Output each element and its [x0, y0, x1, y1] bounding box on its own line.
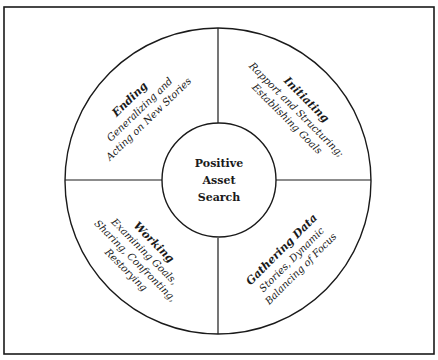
center-line-2: Asset — [202, 174, 237, 187]
diagram-canvas: Positive Asset Search Ending Generalizin… — [0, 0, 438, 360]
quadrant-gathering-data: Gathering Data Stories, Dynamic Balancin… — [242, 211, 338, 307]
center-line-3: Search — [198, 191, 241, 204]
center-line-1: Positive — [195, 157, 243, 170]
stage-cycle-diagram: Positive Asset Search Ending Generalizin… — [0, 0, 438, 360]
